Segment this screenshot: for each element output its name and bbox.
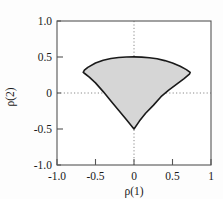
x-ticklabel-1: -0.5 xyxy=(86,170,104,182)
y-ticklabel-0: 1.0 xyxy=(38,15,53,27)
chart-canvas: 1.0 0.5 0 -0.5 -1.0 -1.0 -0.5 0 0.5 1 ρ(… xyxy=(0,0,223,199)
y-axis-title: ρ(2) xyxy=(4,87,17,106)
figure-container: 1.0 0.5 0 -0.5 -1.0 -1.0 -0.5 0 0.5 1 ρ(… xyxy=(0,0,223,199)
x-ticklabel-2: 0 xyxy=(131,170,137,182)
y-ticklabel-1: 0.5 xyxy=(38,51,53,63)
y-ticklabel-3: -0.5 xyxy=(34,123,52,135)
x-axis-title: ρ(1) xyxy=(124,185,143,198)
x-ticklabel-0: -1.0 xyxy=(48,170,66,182)
x-ticklabel-4: 1 xyxy=(208,170,214,182)
y-ticklabel-2: 0 xyxy=(46,87,52,99)
x-ticklabel-3: 0.5 xyxy=(165,170,180,182)
